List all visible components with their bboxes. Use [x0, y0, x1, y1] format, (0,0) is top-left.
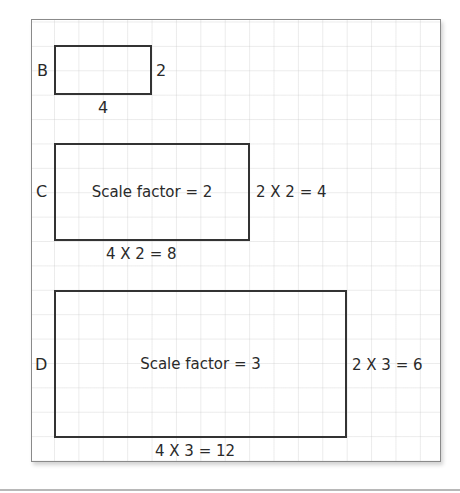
page-divider — [0, 489, 460, 491]
rectangle-d: Scale factor = 3 — [54, 290, 347, 438]
rectangle-c-height-label: 2 X 2 = 4 — [256, 183, 327, 201]
rectangle-c-scale-factor: Scale factor = 2 — [92, 183, 213, 201]
rectangle-c-label: C — [36, 183, 47, 201]
rectangle-d-scale-factor: Scale factor = 3 — [140, 355, 261, 373]
rectangle-b — [54, 45, 152, 95]
rectangle-c: Scale factor = 2 — [54, 143, 250, 241]
rectangle-c-width-label: 4 X 2 = 8 — [106, 245, 177, 263]
rectangle-d-height-label: 2 X 3 = 6 — [352, 356, 423, 374]
rectangle-d-label: D — [35, 356, 47, 374]
rectangle-b-height-label: 2 — [156, 62, 166, 80]
rectangle-b-label: B — [37, 62, 48, 80]
rectangle-d-width-label: 4 X 3 = 12 — [155, 442, 235, 460]
rectangle-b-width-label: 4 — [98, 99, 108, 117]
